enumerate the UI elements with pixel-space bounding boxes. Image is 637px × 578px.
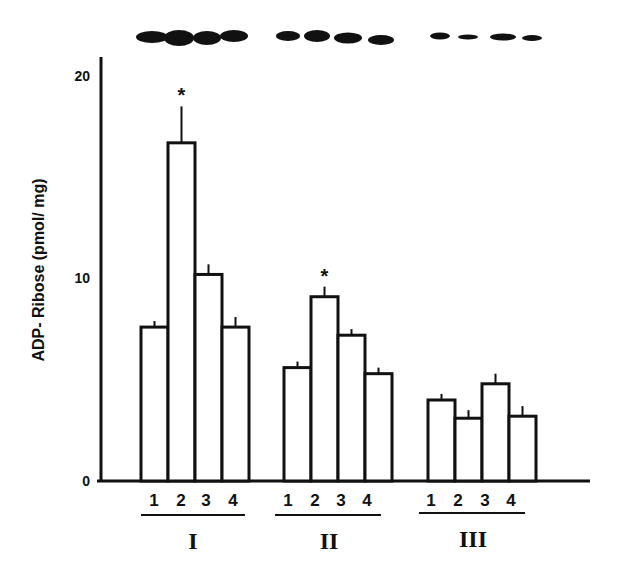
significance-star: * <box>321 265 329 287</box>
category-label: 2 <box>176 491 185 510</box>
blot-band <box>136 31 168 43</box>
blot-band <box>430 33 450 40</box>
significance-star: * <box>178 84 186 106</box>
bar <box>509 416 536 481</box>
y-tick-0: 0 <box>82 473 90 489</box>
chart-canvas: 0 10 20 ADP- Ribose (pmol/ mg) 1 2 3 4 1… <box>0 0 637 578</box>
bar <box>428 400 455 481</box>
blot-band <box>304 30 330 42</box>
y-tick-20: 20 <box>74 68 90 84</box>
blot-band <box>164 30 194 46</box>
bar <box>455 418 482 481</box>
category-label: 4 <box>506 491 516 510</box>
bar <box>168 143 195 481</box>
bar <box>222 327 249 481</box>
y-axis-title: ADP- Ribose (pmol/ mg) <box>30 178 47 361</box>
category-labels: 1 2 3 4 1 2 3 4 1 2 3 4 <box>149 491 516 510</box>
blot-band <box>368 35 394 45</box>
blot-band <box>193 31 221 45</box>
group-label-ii: II <box>320 528 339 554</box>
group-label-i: I <box>188 528 197 554</box>
significance-markers: ** <box>178 84 329 286</box>
bars <box>141 106 536 481</box>
category-label: 3 <box>201 491 210 510</box>
bar <box>311 297 338 481</box>
blot-band <box>276 31 300 41</box>
category-label: 3 <box>480 491 489 510</box>
blot-band <box>490 34 516 41</box>
bar <box>141 327 168 481</box>
blot-band <box>334 33 362 44</box>
western-blot <box>136 30 542 46</box>
bar <box>284 368 311 481</box>
bar <box>482 384 509 481</box>
bar <box>338 335 365 481</box>
category-label: 1 <box>283 491 292 510</box>
group-label-iii: III <box>459 526 487 552</box>
category-label: 4 <box>228 491 238 510</box>
y-tick-10: 10 <box>74 270 90 286</box>
blot-band <box>458 35 478 40</box>
blot-band <box>220 30 248 42</box>
category-label: 2 <box>453 491 462 510</box>
category-label: 3 <box>336 491 345 510</box>
bar <box>365 374 392 481</box>
category-label: 1 <box>426 491 435 510</box>
bar <box>195 274 222 481</box>
category-label: 4 <box>362 491 372 510</box>
category-label: 2 <box>310 491 319 510</box>
category-label: 1 <box>149 491 158 510</box>
blot-band <box>522 35 542 41</box>
